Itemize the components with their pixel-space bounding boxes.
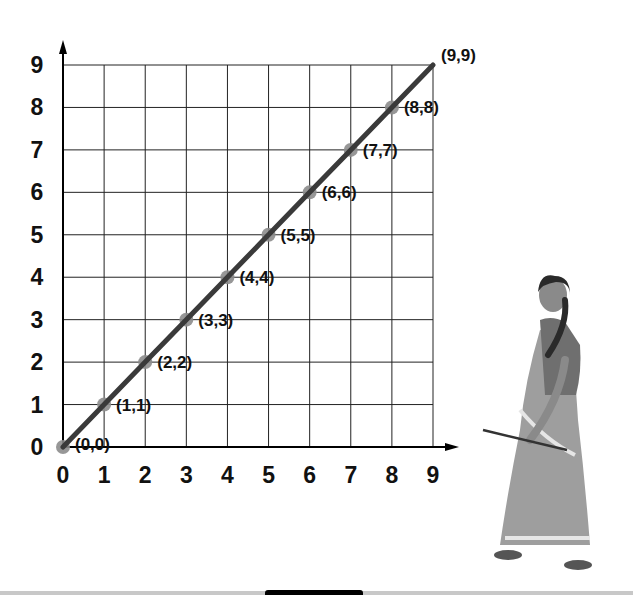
point-label: (7,7) <box>363 141 398 160</box>
y-tick-label: 9 <box>31 52 44 78</box>
y-tick-label: 8 <box>31 94 44 120</box>
y-tick-label: 7 <box>31 137 44 163</box>
point-label: (1,1) <box>116 396 151 415</box>
bottom-tab-handle <box>265 590 363 595</box>
y-axis-arrow-icon <box>59 40 67 54</box>
x-tick-label: 9 <box>427 462 440 488</box>
y-tick-label: 0 <box>31 434 44 460</box>
point-label: (4,4) <box>239 268 274 287</box>
x-tick-label: 2 <box>139 462 152 488</box>
y-tick-label: 1 <box>31 392 44 418</box>
point-label: (8,8) <box>404 98 439 117</box>
series-line <box>63 65 433 447</box>
point-label: (2,2) <box>157 353 192 372</box>
x-tick-label: 6 <box>303 462 316 488</box>
x-tick-label: 1 <box>98 462 111 488</box>
y-tick-label: 6 <box>31 179 44 205</box>
point-label: (6,6) <box>322 183 357 202</box>
x-tick-label: 4 <box>221 462 234 488</box>
point-label: (9,9) <box>441 46 476 65</box>
x-tick-label: 3 <box>180 462 193 488</box>
y-tick-label: 2 <box>31 349 44 375</box>
point-label: (3,3) <box>198 311 233 330</box>
x-axis-arrow-icon <box>445 443 459 451</box>
x-tick-label: 0 <box>57 462 70 488</box>
y-tick-label: 4 <box>31 264 44 290</box>
x-tick-label: 7 <box>344 462 357 488</box>
woman-illustration <box>483 275 592 570</box>
point-label: (0,0) <box>75 435 110 454</box>
x-tick-label: 8 <box>385 462 398 488</box>
x-tick-label: 5 <box>262 462 275 488</box>
coordinate-graph: 01234567890123456789 (0,0)(1,1)(2,2)(3,3… <box>0 0 633 595</box>
y-tick-label: 5 <box>31 222 44 248</box>
y-tick-label: 3 <box>31 307 44 333</box>
data-series-line <box>56 65 433 454</box>
point-label: (5,5) <box>281 226 316 245</box>
